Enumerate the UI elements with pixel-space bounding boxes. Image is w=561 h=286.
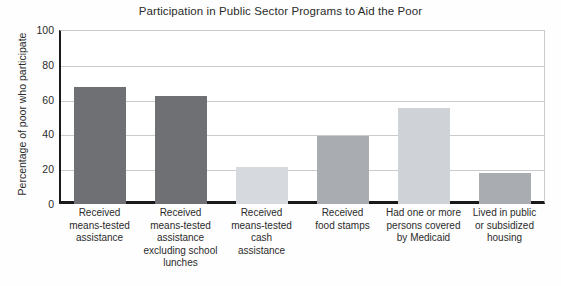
x-axis-label-line: Lived in public xyxy=(465,207,544,220)
y-tick-label: 20 xyxy=(24,164,54,175)
x-axis-label-line: Received xyxy=(141,207,220,220)
x-axis-label-line: excluding school xyxy=(141,245,220,258)
x-axis-label: Had one or morepersons coveredby Medicai… xyxy=(383,207,464,245)
y-axis-tick-labels: 100806040200 xyxy=(18,30,54,204)
x-axis-category-labels: Receivedmeans-testedassistanceReceivedme… xyxy=(59,207,545,270)
y-tick-label: 40 xyxy=(24,129,54,140)
x-axis-label-line: housing xyxy=(465,232,544,245)
y-tick-label: 0 xyxy=(24,199,54,210)
x-axis-label: Receivedmeans-testedcashassistance xyxy=(221,207,302,257)
y-tick-label: 80 xyxy=(24,60,54,71)
x-axis-label-line: means-tested xyxy=(141,220,220,233)
bar[interactable] xyxy=(236,167,288,204)
x-axis-label-line: Had one or more xyxy=(384,207,463,220)
x-axis-label: Lived in publicor subsidizedhousing xyxy=(464,207,545,245)
x-axis-label-line: by Medicaid xyxy=(384,232,463,245)
x-axis-label-line: lunches xyxy=(141,257,220,270)
x-axis-label-line: food stamps xyxy=(303,220,382,233)
x-axis-label-line: assistance xyxy=(141,232,220,245)
bar[interactable] xyxy=(155,96,207,204)
x-axis-label: Receivedmeans-testedassistance xyxy=(59,207,140,245)
x-axis-label-line: persons covered xyxy=(384,220,463,233)
y-tick-label: 60 xyxy=(24,95,54,106)
bar-series xyxy=(59,30,545,204)
bar[interactable] xyxy=(398,108,450,204)
y-tick-label: 100 xyxy=(24,25,54,36)
bar-slot xyxy=(221,30,302,204)
bar-slot xyxy=(140,30,221,204)
x-axis-label-line: or subsidized xyxy=(465,220,544,233)
bar-slot xyxy=(464,30,545,204)
x-axis-label-line: cash xyxy=(222,232,301,245)
x-axis-label: Receivedfood stamps xyxy=(302,207,383,232)
bar[interactable] xyxy=(317,136,369,204)
x-axis-label-line: Received xyxy=(60,207,139,220)
x-axis-label-line: assistance xyxy=(222,245,301,258)
x-axis-label: Receivedmeans-testedassistanceexcluding … xyxy=(140,207,221,270)
bar-slot xyxy=(383,30,464,204)
x-axis-label-line: means-tested xyxy=(60,220,139,233)
x-axis-label-line: Received xyxy=(303,207,382,220)
gridline-0 xyxy=(61,204,544,205)
x-axis-label-line: assistance xyxy=(60,232,139,245)
bar[interactable] xyxy=(479,173,531,204)
bar-chart-figure: Participation in Public Sector Programs … xyxy=(0,0,561,286)
bar[interactable] xyxy=(74,87,126,204)
x-axis-label-line: means-tested xyxy=(222,220,301,233)
x-axis-label-line: Received xyxy=(222,207,301,220)
bar-slot xyxy=(59,30,140,204)
bar-slot xyxy=(302,30,383,204)
chart-title: Participation in Public Sector Programs … xyxy=(0,5,561,17)
